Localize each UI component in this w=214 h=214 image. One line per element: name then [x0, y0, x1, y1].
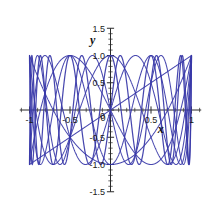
y-axis-label: y — [88, 33, 96, 47]
x-axis-label: x — [157, 122, 164, 136]
y-tick-label: -1.0 — [89, 160, 105, 170]
y-tick-label: 0.5 — [92, 78, 105, 88]
y-tick-label: -0.5 — [89, 133, 105, 143]
chart-plot-area: -1-0.500.51 1.51.00.50-0.5-1.0-1.5 x y — [0, 0, 214, 214]
y-tick-label: 1.0 — [92, 51, 105, 61]
x-tick-label: -1 — [25, 115, 33, 125]
chebyshev-chart-svg: -1-0.500.51 1.51.00.50-0.5-1.0-1.5 x y — [0, 0, 214, 214]
y-tick-label: -1.5 — [89, 187, 105, 197]
y-tick-label: 0 — [100, 111, 105, 121]
x-tick-label: -0.5 — [62, 115, 78, 125]
x-tick-label: 1 — [189, 115, 194, 125]
x-tick-label: 0.5 — [145, 115, 158, 125]
